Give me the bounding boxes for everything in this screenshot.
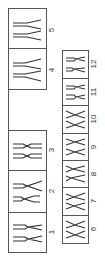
chromosome-pair-9-icon bbox=[63, 134, 88, 160]
chromosome-label-8: 8 bbox=[90, 168, 98, 180]
chromosome-pair-8-icon bbox=[63, 161, 88, 187]
chromosome-pair-5-icon bbox=[9, 9, 46, 48]
chromosome-box-9 bbox=[62, 133, 89, 161]
chromosome-box-8 bbox=[62, 160, 89, 188]
chromosome-label-4: 4 bbox=[48, 64, 56, 76]
chromosome-box-10 bbox=[62, 105, 89, 134]
chromosome-label-5: 5 bbox=[48, 24, 56, 36]
chromosome-label-7: 7 bbox=[90, 195, 98, 207]
chromosome-pair-7-icon bbox=[63, 188, 88, 215]
chromosome-box-4 bbox=[8, 48, 47, 90]
chromosome-label-12: 12 bbox=[90, 58, 98, 70]
chromosome-box-7 bbox=[62, 187, 89, 216]
chromosome-box-2 bbox=[8, 170, 47, 213]
chromosome-box-3 bbox=[8, 130, 47, 171]
chromosome-pair-1-icon bbox=[9, 213, 46, 252]
chromosome-box-11 bbox=[62, 78, 89, 106]
chromosome-pair-11-icon bbox=[63, 79, 88, 105]
chromosome-pair-2-icon bbox=[9, 171, 46, 212]
chromosome-pair-12-icon bbox=[63, 51, 88, 78]
chromosome-label-10: 10 bbox=[90, 113, 98, 125]
chromosome-box-12 bbox=[62, 50, 89, 79]
chromosome-box-1 bbox=[8, 212, 47, 253]
chromosome-label-1: 1 bbox=[48, 226, 56, 238]
chromosome-pair-4-icon bbox=[9, 49, 46, 89]
chromosome-label-2: 2 bbox=[48, 185, 56, 197]
chromosome-label-6: 6 bbox=[90, 223, 98, 235]
chromosome-pair-10-icon bbox=[63, 106, 88, 133]
chromosome-label-3: 3 bbox=[48, 144, 56, 156]
chromosome-label-9: 9 bbox=[90, 141, 98, 153]
chromosome-pair-6-icon bbox=[63, 216, 88, 243]
chromosome-box-6 bbox=[62, 215, 89, 244]
chromosome-label-11: 11 bbox=[90, 86, 98, 98]
chromosome-pair-3-icon bbox=[9, 131, 46, 170]
chromosome-box-5 bbox=[8, 8, 47, 49]
